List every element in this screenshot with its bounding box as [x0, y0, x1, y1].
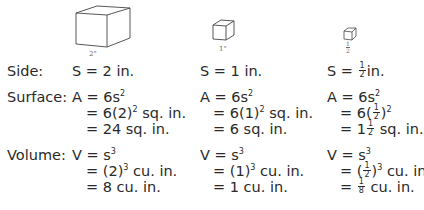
medium-cube-label: 1" — [219, 45, 227, 53]
large-cube-label: 2" — [89, 50, 97, 58]
volume-substitution: = (2)3 cu. in. — [86, 163, 177, 179]
surface-result: = 112 sq. in. — [340, 121, 424, 139]
fraction-half: 12 — [367, 120, 374, 137]
fraction-half: 12 — [359, 62, 366, 79]
surface-formula: A = 6s2 — [72, 89, 125, 105]
large-cube-icon — [76, 6, 130, 47]
small-cube-label: 1 2 — [346, 41, 350, 54]
fraction-eighth: 18 — [358, 178, 365, 195]
small-cube-label-den: 2 — [346, 48, 350, 54]
fraction-half: 12 — [363, 162, 370, 179]
row-label-surface: Surface: — [7, 89, 67, 105]
surface-result: = 24 sq. in. — [86, 121, 170, 137]
medium-cube-icon — [213, 20, 234, 40]
side-value: S = 1 in. — [200, 63, 262, 79]
side-value: S = 12in. — [327, 63, 385, 81]
cube-illustrations — [0, 0, 424, 60]
row-label-side: Side: — [7, 63, 43, 79]
surface-substitution: = 6(1)2 sq. in. — [213, 105, 313, 121]
surface-formula: A = 6s2 — [200, 89, 253, 105]
volume-substitution: = (1)3 cu. in. — [213, 163, 304, 179]
volume-substitution: = (12)3 cu. in. — [340, 163, 424, 181]
surface-substitution: = 6(2)2 sq. in. — [86, 105, 186, 121]
surface-result: = 6 sq. in. — [213, 121, 287, 137]
small-cube-icon — [344, 28, 356, 40]
fraction-half: 12 — [373, 104, 380, 121]
volume-formula: V = s3 — [200, 147, 244, 163]
volume-formula: V = s3 — [72, 147, 116, 163]
volume-result: = 1 cu. in. — [213, 179, 288, 195]
row-label-volume: Volume: — [7, 147, 66, 163]
side-value: S = 2 in. — [72, 63, 134, 79]
volume-result: = 18 cu. in. — [340, 179, 415, 197]
surface-substitution: = 6(12)2 — [340, 105, 392, 123]
volume-result: = 8 cu. in. — [86, 179, 161, 195]
